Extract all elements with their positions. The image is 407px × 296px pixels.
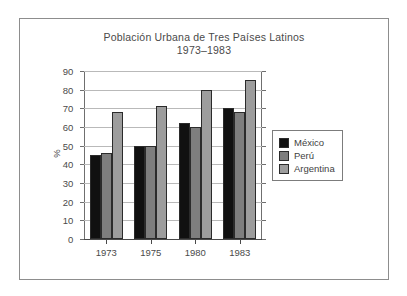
x-tick-mark: [195, 240, 196, 244]
bar-argentina-1973: [112, 112, 123, 239]
x-tick-label: 1983: [229, 247, 250, 258]
legend-item: Argentina: [279, 162, 335, 175]
x-tick-mark: [240, 240, 241, 244]
gridline: [84, 90, 262, 91]
chart-legend: MéxicoPerúArgentina: [272, 130, 343, 181]
y-tick-mark-right: [262, 164, 266, 165]
y-tick-mark: [80, 127, 84, 128]
y-tick-mark-right: [262, 127, 266, 128]
bar-méxico-1973: [90, 155, 101, 239]
legend-label: Argentina: [294, 163, 335, 174]
y-tick-mark: [80, 239, 84, 240]
y-tick-mark: [80, 183, 84, 184]
bar-perú-1973: [101, 153, 112, 239]
gridline: [84, 108, 262, 109]
y-axis-title: %: [51, 149, 62, 157]
plot-area: 0102030405060708090 1973197519801983: [84, 71, 262, 240]
y-axis-right-line: [261, 71, 262, 240]
y-tick-label: 10: [63, 215, 74, 226]
y-tick-label: 90: [63, 66, 74, 77]
bar-méxico-1975: [134, 146, 145, 239]
y-tick-mark-right: [262, 71, 266, 72]
y-tick-mark: [80, 164, 84, 165]
bar-perú-1983: [234, 112, 245, 239]
bar-perú-1975: [145, 146, 156, 239]
legend-swatch-argentina: [279, 164, 289, 174]
x-tick-label: 1975: [140, 247, 161, 258]
y-tick-mark: [80, 220, 84, 221]
chart-title: Población Urbana de Tres Países Latinos: [19, 31, 389, 44]
bar-argentina-1983: [245, 80, 256, 239]
legend-swatch-méxico: [279, 138, 289, 148]
x-tick-mark: [106, 240, 107, 244]
y-tick-label: 80: [63, 84, 74, 95]
x-tick-mark: [151, 240, 152, 244]
y-tick-label: 40: [63, 159, 74, 170]
bar-argentina-1980: [201, 90, 212, 239]
y-tick-mark: [80, 146, 84, 147]
legend-item: México: [279, 136, 335, 149]
y-tick-label: 0: [68, 234, 73, 245]
legend-label: México: [294, 137, 324, 148]
bar-méxico-1980: [179, 123, 190, 239]
y-tick-mark-right: [262, 90, 266, 91]
x-tick-label: 1973: [96, 247, 117, 258]
legend-item: Perú: [279, 149, 335, 162]
chart-figure: Población Urbana de Tres Países Latinos …: [0, 0, 407, 296]
bar-méxico-1983: [223, 108, 234, 239]
y-tick-mark-right: [262, 108, 266, 109]
y-tick-mark: [80, 108, 84, 109]
y-tick-label: 60: [63, 122, 74, 133]
bar-perú-1980: [190, 127, 201, 239]
y-axis-line: [84, 71, 85, 240]
chart-title-block: Población Urbana de Tres Países Latinos …: [19, 31, 389, 57]
y-tick-mark-right: [262, 146, 266, 147]
y-tick-mark: [80, 202, 84, 203]
legend-swatch-perú: [279, 151, 289, 161]
x-axis-line: [84, 239, 262, 240]
chart-subtitle: 1973–1983: [19, 44, 389, 57]
y-tick-label: 50: [63, 140, 74, 151]
y-tick-label: 30: [63, 178, 74, 189]
y-tick-label: 20: [63, 196, 74, 207]
y-tick-mark-right: [262, 220, 266, 221]
y-tick-label: 70: [63, 103, 74, 114]
y-tick-mark-right: [262, 202, 266, 203]
y-tick-mark-right: [262, 239, 266, 240]
x-tick-label: 1980: [185, 247, 206, 258]
y-tick-mark: [80, 71, 84, 72]
bar-argentina-1975: [156, 106, 167, 239]
gridline: [84, 71, 262, 72]
legend-label: Perú: [294, 150, 314, 161]
y-tick-mark-right: [262, 183, 266, 184]
y-tick-mark: [80, 90, 84, 91]
